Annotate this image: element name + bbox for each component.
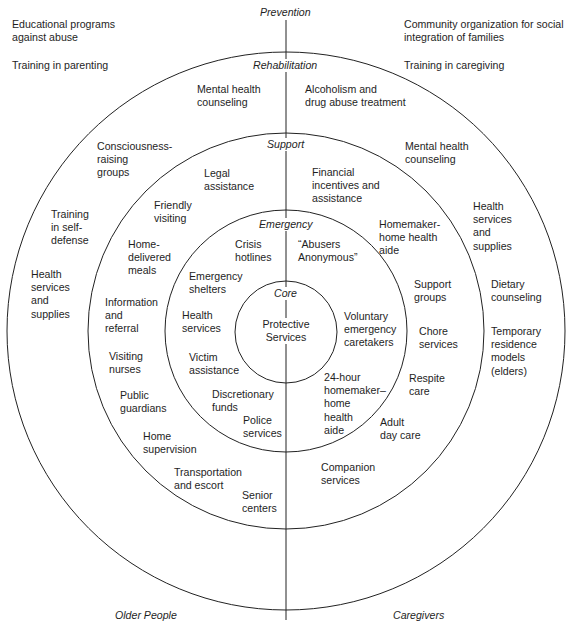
rehabilitation-item: Alcoholism and drug abuse treatment (305, 83, 406, 109)
emergency-item: Voluntary emergency caretakers (344, 310, 396, 350)
support-item: Transportation and escort (174, 466, 242, 492)
support-item: Support groups (414, 278, 451, 304)
support-item: Public guardians (120, 389, 167, 415)
prevention-item: Educational programs against abuse (12, 18, 115, 44)
emergency-item: 24-hour homemaker– home health aide (324, 371, 386, 437)
support-item: Home supervision (143, 430, 197, 456)
side-label-older-people: Older People (113, 609, 179, 622)
concentric-services-diagram (0, 0, 574, 628)
support-item: Friendly visiting (154, 199, 192, 225)
emergency-item: “Abusers Anonymous” (298, 238, 357, 264)
rehabilitation-item: Dietary counseling (491, 278, 542, 304)
emergency-item: Victim assistance (189, 351, 239, 377)
support-item: Homemaker- home health aide (379, 218, 440, 258)
prevention-item: Training in caregiving (404, 59, 504, 72)
support-item: Home- delivered meals (128, 238, 171, 278)
ring-title-support: Support (265, 138, 306, 151)
support-item: Companion services (321, 461, 375, 487)
prevention-item: Training in parenting (12, 59, 108, 72)
support-item: Legal assistance (204, 167, 254, 193)
rehabilitation-item: Training in self- defense (51, 208, 89, 248)
rehabilitation-item: Mental health counseling (405, 140, 469, 166)
side-label-caregivers: Caregivers (391, 609, 446, 622)
support-item: Chore services (419, 325, 458, 351)
emergency-item: Crisis hotlines (235, 238, 272, 264)
rehabilitation-item: Temporary residence models (elders) (491, 325, 541, 378)
emergency-item: Discretionary funds (212, 388, 274, 414)
support-item: Adult day care (380, 416, 421, 442)
rehabilitation-item: Health services and supplies (31, 268, 70, 321)
prevention-item: Community organization for social integr… (404, 18, 564, 44)
ring-title-emergency: Emergency (257, 218, 315, 231)
support-item: Information and referral (105, 296, 158, 336)
core-protective-services: Protective Services (253, 318, 319, 344)
emergency-item: Police services (243, 414, 282, 440)
support-item: Respite care (409, 372, 445, 398)
ring-title-rehabilitation: Rehabilitation (251, 59, 319, 72)
ring-title-prevention: Prevention (258, 6, 313, 19)
emergency-item: Emergency shelters (189, 270, 243, 296)
ring-title-core: Core (272, 287, 299, 300)
rehabilitation-item: Consciousness- raising groups (97, 140, 172, 180)
emergency-item: Health services (182, 309, 221, 335)
rehabilitation-item: Mental health counseling (197, 83, 261, 109)
rehabilitation-item: Health services and supplies (473, 200, 512, 253)
support-item: Financial incentives and assistance (312, 166, 380, 206)
support-item: Senior centers (242, 489, 277, 515)
support-item: Visiting nurses (109, 350, 143, 376)
